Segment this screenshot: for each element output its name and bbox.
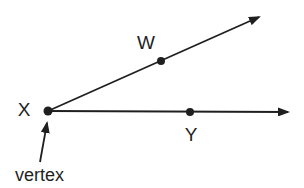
geometry-angle-figure: XWYvertex xyxy=(0,0,304,188)
point-label-y: Y xyxy=(185,124,198,145)
diagram-canvas: XWYvertex xyxy=(0,0,304,188)
vertex-annotation-label: vertex xyxy=(15,165,64,185)
point-dot-w xyxy=(157,57,165,65)
point-dot-y xyxy=(186,108,194,116)
point-label-w: W xyxy=(137,32,155,53)
vertex-pointer-arrow xyxy=(40,123,47,162)
ray-through-y xyxy=(48,111,288,112)
vertex-point-label: X xyxy=(18,99,31,120)
vertex-dot xyxy=(44,107,53,116)
